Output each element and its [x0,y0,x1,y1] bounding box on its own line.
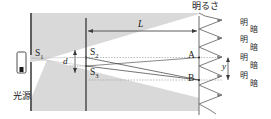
fringe-label-bright-4: 明 [240,72,248,80]
slit-s1-label: S1 [35,49,44,60]
dimension-arrow-y-bottom [226,75,230,80]
brightness-axis-label: 明るさ [192,2,219,11]
slit-separation-label: d [63,57,68,66]
interference-diagram: 光源 S1 S2 S3 d L A B y 明るさ 明 暗 明 暗 明 暗 明 [0,0,271,119]
point-a-label: A [188,51,195,61]
slit-s2-label: S2 [90,48,99,59]
fringe-spacing-label: y [222,62,226,71]
dimension-arrow-y-top [226,58,230,63]
distance-L-label: L [138,20,143,30]
fringe-label-bright-1: 明 [240,19,248,27]
point-b-marker [198,79,200,81]
light-source-filament [20,67,24,72]
fringe-label-dark-4: 暗 [250,80,258,88]
intensity-curve [199,13,222,114]
point-a-marker [198,56,200,58]
fringe-label-dark-3: 暗 [250,62,258,70]
slit-s3-label: S3 [90,68,99,79]
fringe-label-dark-1: 暗 [250,26,258,34]
point-b-label: B [188,74,194,84]
light-source-label: 光源 [13,92,31,101]
fringe-label-bright-2: 明 [240,36,248,44]
fringe-label-bright-3: 明 [240,54,248,62]
fringe-label-dark-2: 暗 [250,44,258,52]
